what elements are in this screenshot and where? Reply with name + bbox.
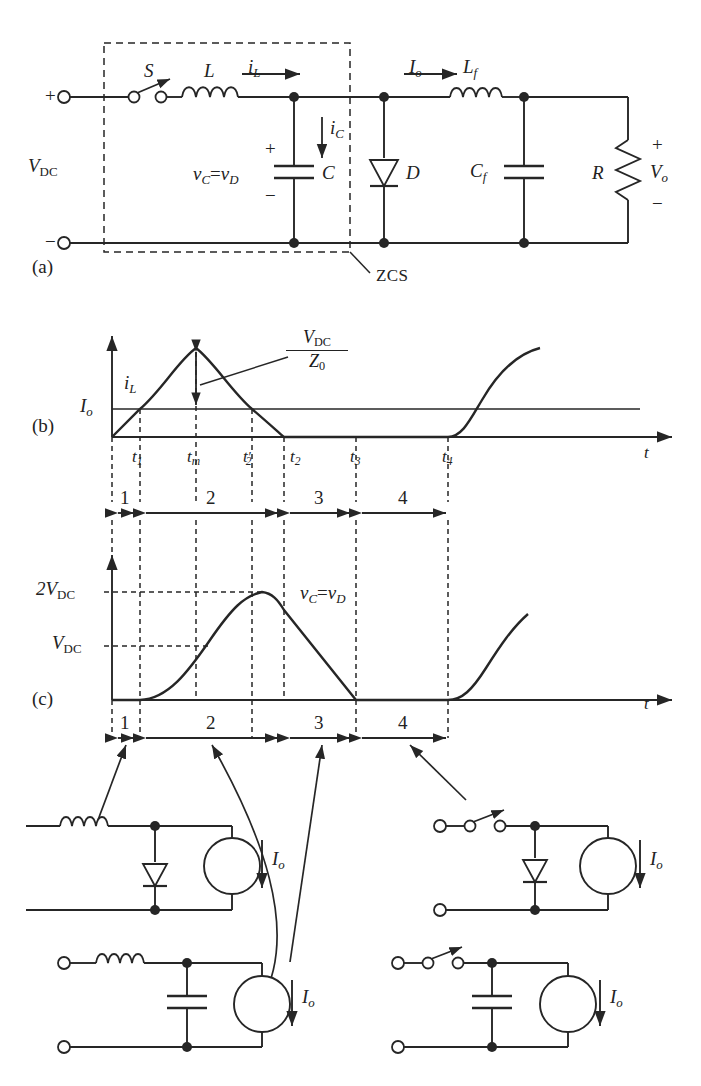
zcs-dashed-box bbox=[104, 43, 350, 252]
pointer-to-interval-4 bbox=[410, 745, 466, 800]
c-time-axis-label: t bbox=[644, 694, 649, 714]
waveform-c bbox=[104, 520, 672, 738]
pointer-to-interval-1 bbox=[98, 745, 126, 820]
zcs-label: ZCS bbox=[376, 266, 408, 286]
sc2-io-label: Io bbox=[302, 986, 315, 1011]
source-label: VDC bbox=[28, 155, 58, 180]
sc2-inductor bbox=[96, 954, 144, 963]
ic-current-label: iC bbox=[330, 117, 344, 142]
b-time-axis-label: t bbox=[644, 443, 649, 463]
panel-label-a: (a) bbox=[32, 256, 53, 278]
c-curve-label-vc-vd: vC=vD bbox=[300, 582, 346, 607]
sc3-current-source bbox=[580, 838, 636, 894]
inductor-label: L bbox=[204, 60, 215, 82]
b-axis-label-il: iL bbox=[124, 372, 136, 397]
waveform-b bbox=[112, 336, 672, 502]
zcs-leader-line bbox=[350, 252, 370, 273]
cap-plus-sign: + bbox=[265, 138, 276, 160]
sc4-current-source bbox=[540, 976, 596, 1032]
c-vc-curve bbox=[112, 592, 528, 700]
b-tick-t4: t4 bbox=[442, 447, 453, 468]
interval-c-label-2: 2 bbox=[206, 712, 216, 734]
b-dashed-verticals bbox=[112, 352, 448, 502]
sc3-io-label: Io bbox=[650, 848, 663, 873]
sc3-terminal-left bbox=[434, 820, 446, 832]
input-terminal-plus bbox=[58, 91, 70, 103]
switch-right-node bbox=[156, 92, 167, 103]
cap-C-label: C bbox=[322, 162, 335, 184]
filter-cap-label: Cf bbox=[470, 160, 486, 185]
b-peak-annotation-leader bbox=[200, 357, 288, 385]
interval-b-label-1: 1 bbox=[120, 487, 130, 509]
subcircuit-3 bbox=[434, 810, 640, 916]
c-ytick-vdc: VDC bbox=[52, 632, 82, 657]
sc1-io-label: Io bbox=[272, 848, 285, 873]
input-plus-sign: + bbox=[45, 85, 56, 107]
vc-vd-label: vC=vD bbox=[193, 163, 239, 188]
sc3-switch-right-node bbox=[495, 821, 506, 832]
pointer-to-interval-3 bbox=[290, 745, 322, 962]
b-io-level-label: Io bbox=[80, 395, 93, 420]
sc1-current-source bbox=[204, 838, 260, 894]
sc4-io-label: Io bbox=[610, 986, 623, 1011]
io-current-label: Io bbox=[409, 56, 422, 81]
sc1-inductor bbox=[60, 817, 108, 826]
il-current-label: iL bbox=[248, 56, 260, 81]
filter-inductor-label: Lf bbox=[463, 56, 477, 81]
panel-label-b: (b) bbox=[32, 415, 54, 437]
b-tick-tm: tm bbox=[187, 447, 200, 468]
c-ytick-2vdc: 2VDC bbox=[36, 578, 75, 603]
sc1-diode-triangle bbox=[143, 864, 167, 886]
sc4-switch-right-node bbox=[453, 958, 464, 969]
switch-label: S bbox=[144, 60, 154, 82]
panel-label-c: (c) bbox=[32, 688, 53, 710]
diode-D-triangle bbox=[370, 160, 398, 186]
sc4-terminal-left bbox=[392, 957, 404, 969]
sc2-current-source bbox=[234, 976, 290, 1032]
interval-b-label-4: 4 bbox=[398, 487, 408, 509]
inductor-L bbox=[182, 87, 238, 97]
c-dashed-verticals bbox=[112, 520, 448, 738]
interval-c-label-4: 4 bbox=[398, 712, 408, 734]
subcircuit-2 bbox=[58, 954, 292, 1053]
interval-b-label-3: 3 bbox=[314, 487, 324, 509]
b-tick-t1: t1 bbox=[132, 447, 143, 468]
c-dashed-horizontals bbox=[104, 592, 262, 646]
b-tick-t2: t2 bbox=[290, 447, 301, 468]
cap-minus-sign: − bbox=[265, 185, 276, 207]
resistor-R bbox=[616, 140, 640, 200]
interval-b-label-2: 2 bbox=[206, 487, 216, 509]
sc3-diode-triangle bbox=[523, 860, 547, 882]
sc2-terminal-top bbox=[58, 957, 70, 969]
sc2-terminal-bottom bbox=[58, 1041, 70, 1053]
subcircuit-4 bbox=[392, 947, 600, 1053]
sc4-terminal-bottom bbox=[392, 1041, 404, 1053]
sc3-terminal-bottom bbox=[434, 904, 446, 916]
diode-D-label: D bbox=[406, 162, 420, 184]
output-plus-sign: + bbox=[652, 134, 663, 156]
subcircuit-1 bbox=[26, 817, 262, 915]
b-tick-t2-prime: t′2 bbox=[243, 447, 252, 468]
b-peak-amplitude-fraction: VDC Z0 bbox=[286, 328, 348, 374]
interval-c-label-3: 3 bbox=[314, 712, 324, 734]
input-terminal-minus bbox=[58, 237, 70, 249]
interval-c-label-1: 1 bbox=[120, 712, 130, 734]
input-minus-sign: − bbox=[45, 231, 56, 253]
figure-root: (a) + − VDC S L iL iC vC=vD + − C D Io L… bbox=[0, 0, 701, 1086]
output-minus-sign: − bbox=[652, 193, 663, 215]
output-voltage-label: Vo bbox=[650, 161, 668, 186]
switch-blade bbox=[137, 79, 170, 93]
inductor-Lf bbox=[450, 88, 502, 97]
b-tick-t3: t3 bbox=[350, 447, 361, 468]
resistor-R-label: R bbox=[592, 162, 604, 184]
